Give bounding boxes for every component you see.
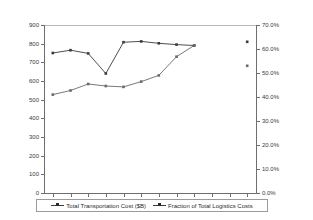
legend-item-transportation-cost[interactable]: Total Transportation Cost ($B): [51, 203, 146, 209]
right-axis-tick: [257, 121, 260, 122]
x-axis-tick: [53, 194, 54, 197]
data-point-marker: [193, 44, 196, 47]
x-axis-tick: [141, 194, 142, 197]
right-axis-tick-label: 70.0%: [262, 22, 296, 28]
left-axis-tick: [41, 193, 44, 194]
right-axis-tick: [257, 73, 260, 74]
left-axis-tick-label: 400: [17, 115, 39, 121]
right-axis-tick: [257, 145, 260, 146]
x-axis-tick: [159, 194, 160, 197]
right-axis-tick: [257, 193, 260, 194]
line-chart: 0100200300400500600700800900 0.0%10.0%20…: [0, 0, 313, 220]
chart-legend: Total Transportation Cost ($B) Fraction …: [36, 199, 268, 212]
legend-marker-icon: [153, 203, 166, 208]
left-axis-tick-label: 900: [17, 22, 39, 28]
data-point-marker: [52, 52, 55, 55]
data-point-marker: [158, 42, 161, 45]
data-point-marker: [158, 74, 161, 77]
legend-marker-icon: [51, 203, 64, 208]
x-axis-tick: [194, 194, 195, 197]
right-axis-tick-label: 0.0%: [262, 190, 296, 196]
data-point-marker: [105, 72, 108, 75]
x-axis-tick: [71, 194, 72, 197]
left-axis-tick-label: 800: [17, 41, 39, 47]
data-point-marker: [175, 55, 178, 58]
data-point-marker: [246, 65, 249, 68]
data-point-marker: [122, 41, 125, 44]
left-axis-tick-label: 200: [17, 153, 39, 159]
legend-item-fraction-logistics[interactable]: Fraction of Total Logistics Costs: [153, 203, 253, 209]
right-axis-tick-label: 60.0%: [262, 46, 296, 52]
data-point-marker: [140, 80, 143, 83]
left-axis-tick-label: 100: [17, 171, 39, 177]
data-point-marker: [87, 52, 90, 55]
left-axis-tick-label: 500: [17, 97, 39, 103]
data-point-marker: [122, 86, 125, 89]
series-line: [53, 41, 194, 73]
right-axis-tick-label: 10.0%: [262, 166, 296, 172]
right-axis-tick: [257, 25, 260, 26]
left-axis-tick-label: 700: [17, 59, 39, 65]
right-axis-tick: [257, 49, 260, 50]
left-axis-tick-label: 300: [17, 134, 39, 140]
legend-label: Fraction of Total Logistics Costs: [168, 203, 253, 209]
series-layer: [44, 25, 256, 193]
left-axis-tick-label: 0: [17, 190, 39, 196]
x-axis-tick: [106, 194, 107, 197]
x-axis-tick: [230, 194, 231, 197]
right-axis-tick-label: 30.0%: [262, 118, 296, 124]
data-point-marker: [87, 83, 90, 86]
data-point-marker: [69, 49, 72, 52]
data-point-marker: [175, 43, 178, 46]
x-axis-tick: [88, 194, 89, 197]
x-axis-tick: [124, 194, 125, 197]
legend-label: Total Transportation Cost ($B): [66, 203, 146, 209]
x-axis-tick: [177, 194, 178, 197]
x-axis-tick: [212, 194, 213, 197]
x-axis-tick: [247, 194, 248, 197]
right-axis-tick: [257, 169, 260, 170]
right-axis-tick-label: 20.0%: [262, 142, 296, 148]
data-point-marker: [140, 40, 143, 43]
right-axis-tick-label: 40.0%: [262, 94, 296, 100]
right-axis-tick-label: 50.0%: [262, 70, 296, 76]
right-axis-tick: [257, 97, 260, 98]
x-axis-line: [44, 193, 257, 194]
data-point-marker: [246, 41, 249, 44]
data-point-marker: [69, 89, 72, 92]
data-point-marker: [52, 93, 55, 96]
data-point-marker: [105, 85, 108, 88]
left-axis-tick-label: 600: [17, 78, 39, 84]
